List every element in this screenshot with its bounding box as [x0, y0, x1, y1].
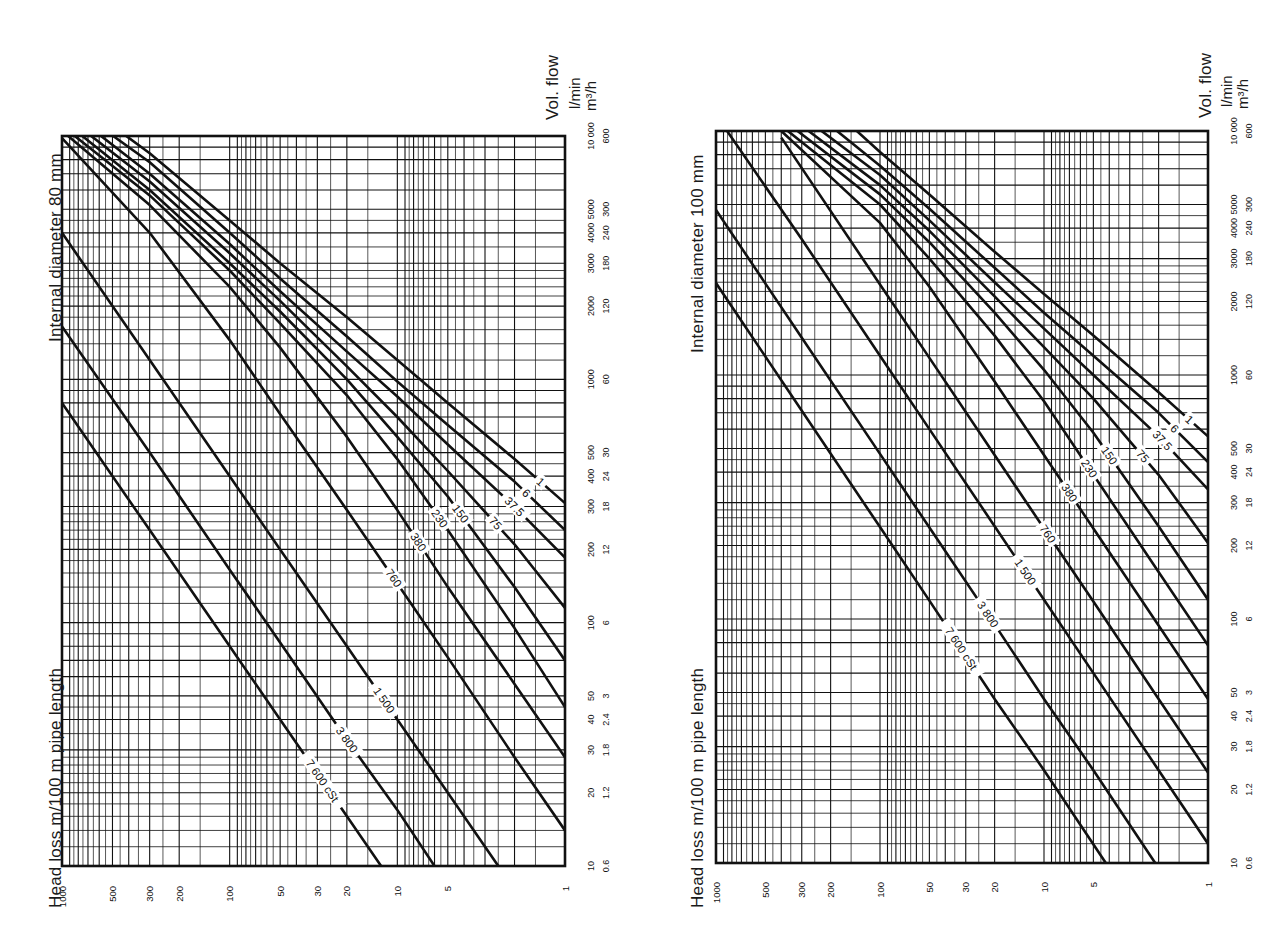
svg-text:240: 240 [1244, 221, 1254, 236]
svg-text:5: 5 [442, 886, 453, 891]
svg-text:30: 30 [312, 886, 323, 897]
y-axis-ticks: 100.6201.2301.8402.450310062001230018400… [586, 122, 611, 872]
panel-2-unit-lmin: l/min [1218, 75, 1235, 107]
x-axis-ticks: 10005003002001005030201051 [711, 882, 1214, 903]
svg-text:500: 500 [586, 445, 596, 460]
viscosity-curves [62, 126, 565, 866]
svg-text:120: 120 [601, 299, 611, 314]
panel-2-xlabel: Head loss m/100 m pipe length [688, 668, 708, 908]
svg-text:200: 200 [1229, 538, 1239, 553]
svg-text:200: 200 [174, 886, 185, 902]
svg-text:20: 20 [341, 886, 352, 897]
svg-text:1000: 1000 [586, 369, 596, 389]
svg-text:600: 600 [601, 128, 611, 143]
curve-6 [99, 126, 565, 530]
svg-text:180: 180 [1244, 251, 1254, 266]
y-axis-ticks: 100.6201.2301.8402.450310062001230018400… [1229, 117, 1254, 869]
panel-1-title: Internal diameter 80 mm [46, 153, 66, 342]
svg-text:500: 500 [1229, 441, 1239, 456]
svg-text:3: 3 [601, 693, 611, 698]
svg-text:2.4: 2.4 [601, 713, 611, 726]
svg-text:1000: 1000 [1229, 365, 1239, 385]
svg-text:2.4: 2.4 [1244, 710, 1254, 723]
svg-text:3000: 3000 [586, 253, 596, 273]
svg-text:10: 10 [1229, 858, 1239, 868]
svg-text:180: 180 [601, 256, 611, 271]
svg-text:20: 20 [586, 788, 596, 798]
curve-380 [62, 131, 565, 757]
svg-text:2000: 2000 [586, 296, 596, 316]
svg-text:400: 400 [586, 469, 596, 484]
svg-text:300: 300 [1244, 197, 1254, 212]
svg-text:300: 300 [586, 499, 596, 514]
curve-1 [113, 126, 566, 503]
svg-text:20: 20 [1229, 784, 1239, 794]
svg-text:5: 5 [1088, 882, 1099, 887]
svg-text:300: 300 [144, 886, 155, 902]
grid [716, 131, 1208, 863]
svg-text:400: 400 [1229, 465, 1239, 480]
panel-1-unit-m3h: m³/h [582, 81, 599, 111]
curve-labels: 1637.5751502303807601 5003 8007 600 cSt [938, 410, 1199, 679]
svg-text:6: 6 [1244, 616, 1254, 621]
svg-text:600: 600 [1244, 123, 1254, 138]
svg-text:50: 50 [1229, 687, 1239, 697]
svg-text:24: 24 [601, 471, 611, 481]
plot-frame [716, 131, 1208, 863]
svg-text:4000: 4000 [586, 223, 596, 243]
svg-text:40: 40 [1229, 711, 1239, 721]
svg-text:12: 12 [1244, 540, 1254, 550]
x-axis-ticks: 10005003002001005030201051 [57, 886, 571, 907]
svg-text:30: 30 [586, 745, 596, 755]
svg-text:30: 30 [960, 882, 971, 893]
svg-text:0.6: 0.6 [1244, 857, 1254, 870]
svg-text:1.2: 1.2 [1244, 783, 1254, 796]
svg-text:100: 100 [224, 886, 235, 902]
svg-text:6: 6 [601, 620, 611, 625]
svg-text:60: 60 [601, 374, 611, 384]
curve-1 [851, 126, 1208, 437]
svg-text:300: 300 [1229, 495, 1239, 510]
svg-text:100: 100 [875, 882, 886, 898]
curve-75 [802, 126, 1208, 543]
svg-text:1.8: 1.8 [1244, 740, 1254, 753]
svg-text:30: 30 [1244, 443, 1254, 453]
svg-text:1 500: 1 500 [1012, 557, 1038, 588]
panel-1-xlabel: Head loss m/100 m pipe length [46, 668, 66, 908]
curve-3-800 [62, 326, 435, 866]
chart-panel-2: 1637.5751502303807601 5003 8007 600 cSt1… [711, 117, 1255, 903]
svg-text:500: 500 [107, 886, 118, 902]
svg-text:50: 50 [275, 886, 286, 897]
panel-2-unit-m3h: m³/h [1234, 79, 1251, 109]
svg-text:30: 30 [1229, 742, 1239, 752]
svg-text:20: 20 [989, 882, 1000, 893]
svg-text:18: 18 [1244, 498, 1254, 508]
panel-2-flow-label: Vol. flow [1196, 53, 1216, 118]
svg-text:1000: 1000 [711, 882, 722, 903]
svg-text:240: 240 [601, 225, 611, 240]
svg-text:300: 300 [796, 882, 807, 898]
svg-text:60: 60 [1244, 370, 1254, 380]
curve-3-800 [716, 210, 1155, 863]
panel-2-title: Internal diameter 100 mm [688, 155, 708, 354]
svg-text:5000: 5000 [1229, 194, 1239, 214]
svg-text:120: 120 [1244, 294, 1254, 309]
svg-text:1.2: 1.2 [601, 786, 611, 799]
svg-text:24: 24 [1244, 467, 1254, 477]
svg-text:50: 50 [924, 882, 935, 893]
svg-text:1: 1 [1203, 882, 1214, 887]
svg-text:10: 10 [392, 886, 403, 897]
svg-text:4000: 4000 [1229, 218, 1239, 238]
svg-text:300: 300 [601, 202, 611, 217]
svg-text:7 600 cSt: 7 600 cSt [304, 757, 342, 804]
svg-text:10: 10 [586, 861, 596, 871]
svg-text:500: 500 [760, 882, 771, 898]
svg-text:100: 100 [586, 615, 596, 630]
svg-text:3: 3 [1244, 690, 1254, 695]
svg-text:7 600 cSt: 7 600 cSt [943, 625, 980, 673]
svg-text:1 500: 1 500 [371, 685, 397, 716]
svg-text:10 000: 10 000 [586, 122, 596, 150]
svg-text:0.6: 0.6 [601, 860, 611, 873]
svg-text:40: 40 [586, 714, 596, 724]
pipe-head-loss-charts: 1637.5751502303807601 5003 8007 600 cSt1… [0, 0, 1288, 931]
